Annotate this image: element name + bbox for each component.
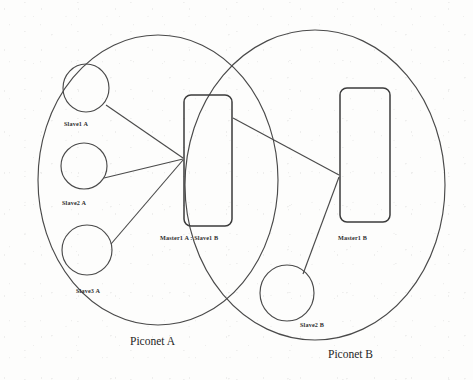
label-master1-a-slave1-b: Master1 A : Slave1 B <box>160 234 218 241</box>
link-slave3a-to-master1a <box>111 160 183 244</box>
node-slave2-b[interactable] <box>260 265 314 321</box>
label-slave3-a: Slave3 A <box>76 287 100 294</box>
label-slave2-a: Slave2 A <box>62 199 86 206</box>
label-slave1-a: Slave1 A <box>64 120 88 127</box>
link-slave2b-to-master1b <box>303 177 339 274</box>
diagram-canvas: Slave1 A Slave2 A Slave3 A Slave2 B Mast… <box>0 0 473 380</box>
caption-piconet-a: Piconet A <box>130 335 176 347</box>
node-master1-a-slave1-b[interactable] <box>184 95 232 226</box>
label-slave2-b: Slave2 B <box>300 321 324 328</box>
label-master1-b: Master1 B <box>338 234 367 241</box>
node-master1-b[interactable] <box>340 88 390 222</box>
link-slave2a-to-master1a <box>104 159 183 178</box>
piconet-b-boundary <box>185 30 445 340</box>
node-slave2-a[interactable] <box>61 143 107 189</box>
caption-piconet-b: Piconet B <box>328 348 373 360</box>
link-master1a-to-master1b <box>233 118 339 175</box>
link-slave1a-to-master1a <box>106 105 183 158</box>
piconet-a-boundary <box>38 35 278 325</box>
node-slave3-a[interactable] <box>62 225 112 275</box>
scatternet-diagram: Slave1 A Slave2 A Slave3 A Slave2 B Mast… <box>0 0 473 380</box>
node-slave1-a[interactable] <box>63 64 109 112</box>
